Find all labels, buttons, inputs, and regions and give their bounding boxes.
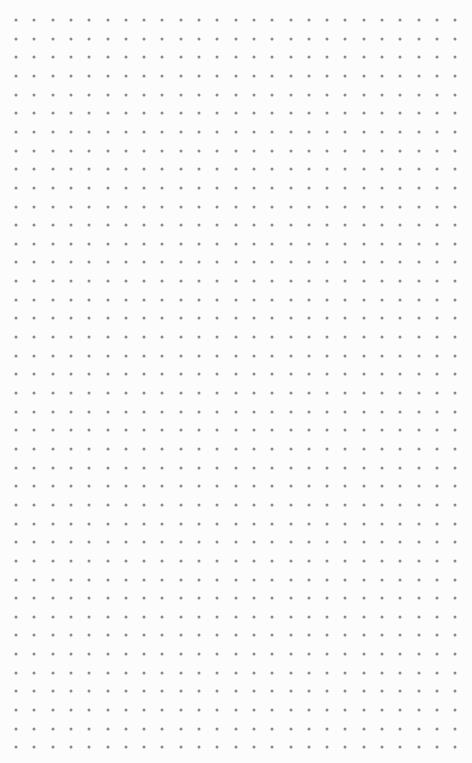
grid-dot	[15, 336, 18, 339]
grid-dot	[344, 392, 347, 395]
grid-dot	[417, 317, 420, 320]
grid-dot	[69, 597, 72, 600]
grid-dot	[234, 19, 237, 22]
grid-dot	[143, 746, 146, 749]
grid-dot	[216, 727, 219, 730]
grid-dot	[69, 261, 72, 264]
grid-dot	[399, 112, 402, 115]
grid-dot	[252, 205, 255, 208]
grid-dot	[124, 37, 127, 40]
grid-dot	[252, 19, 255, 22]
grid-dot	[216, 429, 219, 432]
grid-dot	[252, 112, 255, 115]
grid-dot	[417, 37, 420, 40]
grid-dot	[289, 522, 292, 525]
grid-dot	[88, 541, 91, 544]
grid-dot	[362, 597, 365, 600]
grid-dot	[33, 149, 36, 152]
grid-dot	[161, 634, 164, 637]
grid-dot	[69, 429, 72, 432]
grid-dot	[289, 74, 292, 77]
grid-dot	[417, 56, 420, 59]
grid-dot	[399, 690, 402, 693]
grid-dot	[252, 56, 255, 59]
grid-dot	[362, 242, 365, 245]
grid-dot	[69, 37, 72, 40]
grid-dot	[289, 485, 292, 488]
grid-dot	[234, 690, 237, 693]
grid-dot	[198, 317, 201, 320]
grid-dot	[399, 466, 402, 469]
grid-dot	[307, 19, 310, 22]
grid-dot	[198, 56, 201, 59]
grid-dot	[216, 149, 219, 152]
grid-dot	[143, 56, 146, 59]
grid-dot	[417, 298, 420, 301]
grid-dot	[289, 466, 292, 469]
grid-dot	[454, 746, 457, 749]
grid-dot	[33, 503, 36, 506]
grid-dot	[69, 485, 72, 488]
grid-dot	[362, 503, 365, 506]
grid-dot	[454, 336, 457, 339]
grid-dot	[15, 373, 18, 376]
grid-dot	[15, 261, 18, 264]
grid-dot	[435, 354, 438, 357]
grid-dot	[307, 653, 310, 656]
grid-dot	[234, 130, 237, 133]
grid-dot	[15, 280, 18, 283]
grid-dot	[161, 56, 164, 59]
grid-dot	[234, 242, 237, 245]
grid-dot	[161, 578, 164, 581]
grid-dot	[124, 746, 127, 749]
grid-dot	[381, 559, 384, 562]
grid-dot	[417, 93, 420, 96]
grid-dot	[307, 709, 310, 712]
grid-dot	[326, 19, 329, 22]
grid-dot	[454, 93, 457, 96]
grid-dot	[289, 541, 292, 544]
grid-dot	[69, 727, 72, 730]
grid-dot	[216, 503, 219, 506]
grid-dot	[88, 503, 91, 506]
grid-dot	[454, 615, 457, 618]
grid-dot	[417, 653, 420, 656]
grid-dot	[271, 56, 274, 59]
grid-dot	[161, 597, 164, 600]
grid-dot	[271, 186, 274, 189]
grid-dot	[15, 671, 18, 674]
grid-dot	[271, 205, 274, 208]
grid-dot	[454, 447, 457, 450]
grid-dot	[198, 205, 201, 208]
grid-dot	[143, 503, 146, 506]
grid-dot	[106, 37, 109, 40]
grid-dot	[417, 597, 420, 600]
grid-dot	[381, 336, 384, 339]
grid-dot	[15, 559, 18, 562]
grid-dot	[216, 37, 219, 40]
grid-dot	[381, 429, 384, 432]
grid-dot	[454, 354, 457, 357]
grid-dot	[435, 410, 438, 413]
grid-dot	[198, 168, 201, 171]
grid-dot	[161, 336, 164, 339]
grid-dot	[88, 709, 91, 712]
grid-dot	[399, 746, 402, 749]
grid-dot	[51, 224, 54, 227]
grid-dot	[69, 336, 72, 339]
grid-dot	[417, 503, 420, 506]
grid-dot	[198, 149, 201, 152]
grid-dot	[51, 503, 54, 506]
grid-dot	[417, 709, 420, 712]
grid-dot	[234, 466, 237, 469]
grid-dot	[179, 317, 182, 320]
grid-dot	[307, 485, 310, 488]
grid-dot	[326, 503, 329, 506]
grid-dot	[198, 709, 201, 712]
grid-dot	[179, 671, 182, 674]
grid-dot	[435, 149, 438, 152]
grid-dot	[216, 690, 219, 693]
grid-dot	[289, 112, 292, 115]
grid-dot	[362, 37, 365, 40]
grid-dot	[344, 354, 347, 357]
